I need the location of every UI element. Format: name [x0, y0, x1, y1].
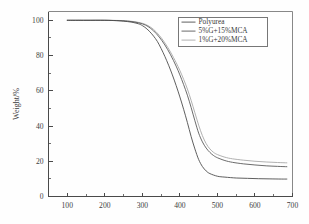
- y-tick-label: 100: [32, 16, 44, 25]
- legend-item-label: 5%G+15%MCA: [199, 26, 249, 35]
- y-tick-label: 0: [40, 192, 44, 201]
- y-axis-title: Weight/%: [12, 88, 21, 120]
- y-axis-ticks: 020406080100: [32, 16, 52, 201]
- x-tick-label: 100: [62, 201, 74, 210]
- legend: Polyurea5%G+15%MCA1%G+20%MCA: [179, 17, 268, 46]
- legend-item-label: 1%G+20%MCA: [199, 35, 249, 44]
- chart-canvas: 100200300400500600700020406080100Weight/…: [0, 0, 309, 224]
- y-tick-label: 40: [36, 122, 44, 131]
- x-tick-label: 300: [137, 201, 149, 210]
- y-tick-label: 60: [36, 86, 44, 95]
- y-tick-label: 20: [36, 157, 44, 166]
- x-tick-label: 400: [174, 201, 186, 210]
- y-tick-label: 80: [36, 51, 44, 60]
- x-tick-label: 700: [287, 201, 299, 210]
- tga-chart-figure: 100200300400500600700020406080100Weight/…: [0, 0, 309, 224]
- legend-item-label: Polyurea: [199, 17, 226, 26]
- x-tick-label: 600: [249, 201, 261, 210]
- x-tick-label: 500: [212, 201, 224, 210]
- x-axis-ticks: 100200300400500600700: [62, 193, 299, 210]
- x-tick-label: 200: [99, 201, 111, 210]
